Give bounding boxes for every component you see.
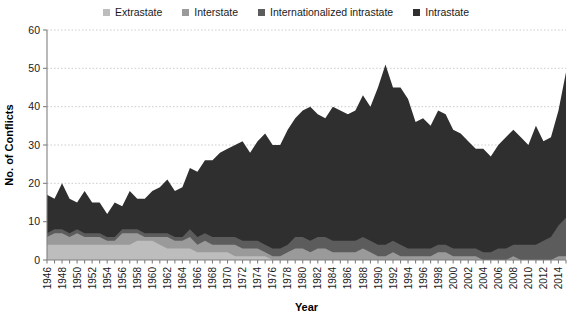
legend-item-label: Interstate [194,7,238,18]
y-tick-label: 20 [28,177,40,189]
x-tick-label: 1972 [237,267,248,290]
conflicts-stacked-area-chart: ExtrastateInterstateInternationalized in… [0,0,572,319]
y-tick-label: 40 [28,100,40,112]
x-tick-label: 1964 [177,267,188,290]
x-tick-label: 1948 [57,267,68,290]
x-tick-label: 1998 [433,267,444,290]
x-tick-label: 1956 [117,267,128,290]
x-tick-label: 1994 [403,267,414,290]
x-tick-label: 1980 [297,267,308,290]
chart-legend: ExtrastateInterstateInternationalized in… [0,0,572,24]
legend-item-label: Extrastate [115,7,162,18]
x-tick-label: 1996 [418,267,429,290]
legend-item[interactable]: Internationalized intrastate [258,7,393,18]
y-tick-label: 50 [28,62,40,74]
x-tick-label: 2000 [448,267,459,290]
x-tick-label: 1962 [162,267,173,290]
square-swatch-icon [103,9,110,16]
x-tick-label: 1986 [342,267,353,290]
legend-item-label: Internationalized intrastate [270,7,393,18]
x-tick-label: 1984 [327,267,338,290]
x-tick-label: 1946 [42,267,53,290]
x-tick-label: 1958 [132,267,143,290]
x-tick-label: 2010 [523,267,534,290]
y-axis-title: No. of Conflicts [3,104,15,185]
legend-item[interactable]: Interstate [182,7,238,18]
x-tick-label: 2006 [493,267,504,290]
x-tick-label: 2012 [538,267,549,290]
x-tick-label: 1950 [72,267,83,290]
x-tick-label: 1966 [192,267,203,290]
y-tick-label: 10 [28,215,40,227]
x-tick-label: 1976 [267,267,278,290]
chart-plot-area: 0102030405060194619481950195219541956195… [0,0,572,319]
y-tick-label: 30 [28,139,40,151]
x-tick-label: 2008 [508,267,519,290]
x-tick-label: 1988 [358,267,369,290]
square-swatch-icon [258,9,265,16]
x-tick-label: 1954 [102,267,113,290]
legend-item[interactable]: Intrastate [413,7,469,18]
x-tick-label: 1978 [282,267,293,290]
x-axis-title: Year [295,301,319,313]
x-tick-label: 1982 [312,267,323,290]
x-tick-label: 2002 [463,267,474,290]
x-tick-label: 1968 [207,267,218,290]
legend-item[interactable]: Extrastate [103,7,162,18]
x-tick-label: 1974 [252,267,263,290]
x-tick-label: 1992 [388,267,399,290]
x-tick-label: 2014 [553,267,564,290]
y-tick-label: 0 [34,254,40,266]
square-swatch-icon [413,9,420,16]
x-tick-label: 1990 [373,267,384,290]
x-tick-label: 1970 [222,267,233,290]
x-tick-label: 1952 [87,267,98,290]
legend-item-label: Intrastate [425,7,469,18]
square-swatch-icon [182,9,189,16]
x-tick-label: 1960 [147,267,158,290]
y-tick-label: 60 [28,24,40,36]
x-tick-label: 2004 [478,267,489,290]
